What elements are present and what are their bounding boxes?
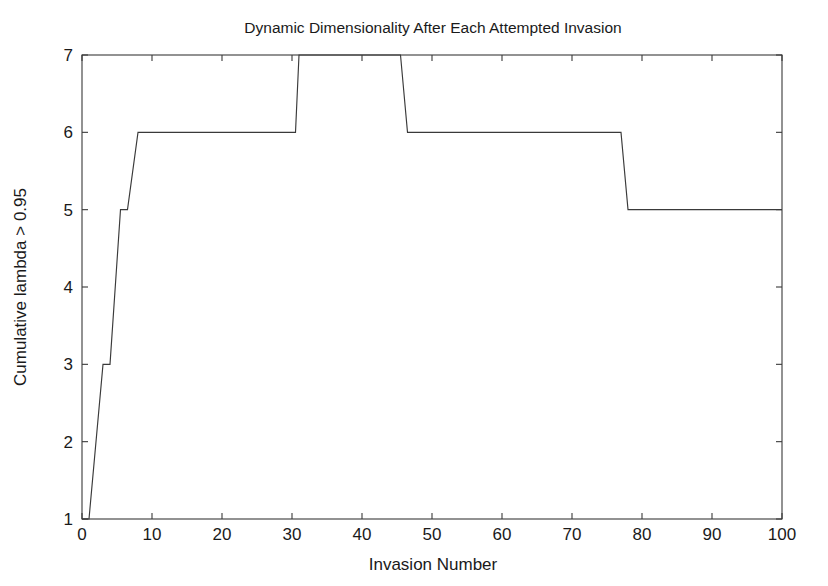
data-series-group	[82, 55, 782, 519]
x-axis-label: Invasion Number	[369, 555, 498, 574]
y-tick-label: 7	[64, 46, 73, 65]
x-tick-label: 50	[423, 525, 442, 544]
x-tick-label: 100	[768, 525, 796, 544]
y-tick-label: 5	[64, 201, 73, 220]
x-tick-label: 20	[213, 525, 232, 544]
figure-canvas: Dynamic Dimensionality After Each Attemp…	[0, 0, 828, 586]
plot-frame	[82, 55, 782, 519]
y-axis-label: Cumulative lambda > 0.95	[11, 188, 30, 386]
x-tick-label: 30	[283, 525, 302, 544]
x-tick-label: 90	[703, 525, 722, 544]
y-tick-label: 2	[64, 433, 73, 452]
y-axis-tick-labels: 1234567	[64, 46, 73, 529]
x-tick-label: 70	[563, 525, 582, 544]
y-axis-ticks	[82, 55, 782, 519]
data-line	[82, 55, 782, 519]
y-tick-label: 4	[64, 278, 73, 297]
y-tick-label: 1	[64, 510, 73, 529]
x-axis-tick-labels: 0102030405060708090100	[77, 525, 796, 544]
y-tick-label: 6	[64, 123, 73, 142]
x-axis-ticks	[82, 55, 782, 519]
x-tick-label: 80	[633, 525, 652, 544]
x-tick-label: 60	[493, 525, 512, 544]
x-tick-label: 0	[77, 525, 86, 544]
chart-title: Dynamic Dimensionality After Each Attemp…	[244, 19, 621, 36]
y-tick-label: 3	[64, 355, 73, 374]
x-tick-label: 40	[353, 525, 372, 544]
x-tick-label: 10	[143, 525, 162, 544]
chart-svg: Dynamic Dimensionality After Each Attemp…	[0, 0, 828, 586]
